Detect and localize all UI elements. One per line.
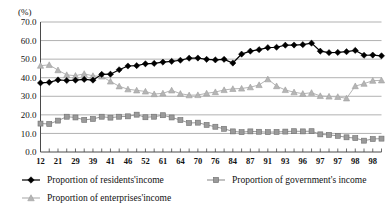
- x-axis-tick-label: 98: [369, 156, 378, 166]
- x-axis-tick-label: 64: [176, 156, 185, 166]
- x-axis-tick-label: 97: [316, 156, 325, 166]
- y-axis-tick-label: 20.0: [21, 110, 37, 120]
- legend-label: Proportion of residents'income: [47, 175, 164, 185]
- x-axis-tick-label: 21: [54, 156, 63, 166]
- x-axis-tick-label: 96: [299, 156, 308, 166]
- data-point-marker: [222, 126, 227, 131]
- data-point-marker: [143, 115, 148, 120]
- x-axis-tick-label: 97: [334, 156, 343, 166]
- x-axis-tick-label: 76: [211, 156, 220, 166]
- data-point-marker: [160, 113, 165, 118]
- data-point-marker: [362, 138, 367, 143]
- y-axis-tick-label: 50.0: [21, 54, 37, 64]
- data-point-marker: [125, 114, 130, 119]
- y-axis-tick-label: 40.0: [21, 73, 37, 83]
- data-point-marker: [64, 114, 69, 119]
- x-axis-tick-label: 91: [264, 156, 273, 166]
- data-point-marker: [335, 133, 340, 138]
- data-point-marker: [108, 115, 113, 120]
- y-axis-tick-label: 60.0: [21, 36, 37, 46]
- data-point-marker: [292, 129, 297, 134]
- legend-label: Proportion of government's income: [232, 175, 366, 185]
- x-axis-tick-label: 52: [141, 156, 150, 166]
- data-point-marker: [379, 136, 384, 141]
- data-point-marker: [178, 118, 183, 123]
- data-point-marker: [283, 129, 288, 134]
- y-axis-tick-label: 30.0: [21, 91, 37, 101]
- data-point-marker: [370, 137, 375, 142]
- y-axis-tick-label: 70.0: [21, 17, 37, 27]
- data-point-marker: [169, 115, 174, 120]
- x-axis-tick-label: 12: [36, 156, 45, 166]
- data-point-marker: [274, 129, 279, 134]
- data-point-marker: [55, 118, 60, 123]
- data-point-marker: [117, 114, 122, 119]
- data-point-marker: [195, 120, 200, 125]
- x-axis-tick-label: 29: [71, 156, 80, 166]
- data-point-marker: [213, 177, 218, 182]
- data-point-marker: [300, 129, 305, 134]
- x-axis-tick-label: 84: [229, 156, 238, 166]
- y-axis-tick-label: 10.0: [21, 129, 37, 139]
- data-point-marker: [257, 129, 262, 134]
- data-point-marker: [239, 130, 244, 135]
- y-axis-tick-label: 0.0: [25, 147, 37, 157]
- data-point-marker: [265, 130, 270, 135]
- data-point-marker: [82, 117, 87, 122]
- data-point-marker: [318, 132, 323, 137]
- data-point-marker: [152, 114, 157, 119]
- data-point-marker: [230, 129, 235, 134]
- x-axis-tick-label: 39: [89, 156, 98, 166]
- x-axis-tick-label: 93: [281, 156, 290, 166]
- income-proportion-line-chart: (%) 70.060.050.040.030.020.010.00.0 1221…: [0, 0, 389, 217]
- data-point-marker: [213, 124, 218, 129]
- x-axis-tick-label: 41: [106, 156, 115, 166]
- data-point-marker: [90, 116, 95, 121]
- x-axis-tick-label: 70: [194, 156, 203, 166]
- data-point-marker: [327, 132, 332, 137]
- y-axis-unit-label: (%): [18, 7, 32, 17]
- data-point-marker: [204, 122, 209, 127]
- data-point-marker: [73, 115, 78, 120]
- data-point-marker: [309, 129, 314, 134]
- data-point-marker: [248, 129, 253, 134]
- data-point-marker: [47, 121, 52, 126]
- data-point-marker: [187, 121, 192, 126]
- data-point-marker: [134, 112, 139, 117]
- chart-container: (%) 70.060.050.040.030.020.010.00.0 1221…: [0, 0, 389, 217]
- data-point-marker: [38, 121, 43, 126]
- legend-label: Proportion of enterprises'income: [47, 193, 171, 203]
- x-axis-tick-label: 87: [246, 156, 255, 166]
- x-axis-tick-label: 46: [124, 156, 133, 166]
- data-point-marker: [353, 136, 358, 141]
- x-axis-tick-label: 98: [351, 156, 360, 166]
- x-axis-tick-label: 61: [159, 156, 168, 166]
- data-point-marker: [99, 114, 104, 119]
- data-point-marker: [344, 135, 349, 140]
